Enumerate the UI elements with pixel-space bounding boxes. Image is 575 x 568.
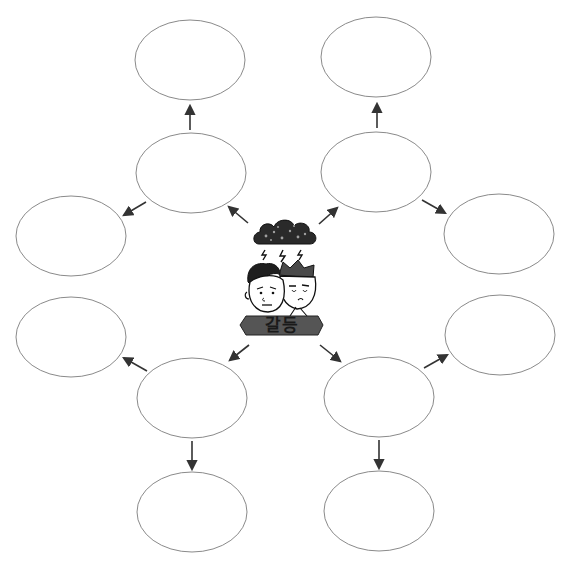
arrow-to-right-lower (424, 355, 447, 368)
node-top-right[interactable] (321, 17, 431, 97)
node-right-upper[interactable] (444, 194, 554, 274)
node-bottom-right[interactable] (324, 471, 434, 551)
arrow-to-left-lower (124, 358, 147, 371)
arrow-center-to-upper-right-mid (319, 208, 337, 224)
lightning-icon (262, 250, 302, 262)
mind-map-canvas (0, 0, 575, 568)
arrow-to-left-upper (124, 202, 146, 215)
arrow-center-to-lower-left-mid (230, 345, 249, 360)
node-left-upper[interactable] (16, 196, 126, 276)
node-upper-left-mid[interactable] (136, 133, 246, 213)
arrow-to-right-upper (422, 200, 445, 213)
arrow-center-to-upper-left-mid (229, 207, 248, 223)
node-right-lower[interactable] (445, 295, 555, 375)
node-left-lower[interactable] (16, 297, 126, 377)
storm-cloud-icon (254, 220, 316, 244)
node-lower-left-mid[interactable] (137, 358, 247, 438)
node-lower-right-mid[interactable] (324, 357, 434, 437)
worried-man-left-icon (245, 263, 284, 312)
center-label: 갈등 (246, 314, 318, 336)
node-upper-right-mid[interactable] (321, 132, 431, 212)
node-top-left[interactable] (135, 20, 245, 100)
arrow-center-to-lower-right-mid (320, 345, 340, 361)
node-bottom-left[interactable] (137, 472, 247, 552)
